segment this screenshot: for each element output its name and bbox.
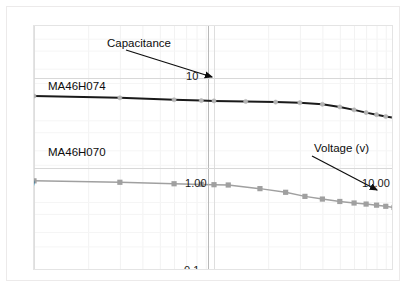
chart-figure: MA46H074 MA46H070 Capacitance Voltage (v… <box>0 0 408 289</box>
plot-area: MA46H074 MA46H070 Capacitance Voltage (v… <box>33 25 393 270</box>
annotation-voltage: Voltage (v) <box>314 142 369 154</box>
x-tick-10-00: 10.00 <box>362 177 390 189</box>
series-label-ma46h070: MA46H070 <box>48 146 106 158</box>
y-tick-0-1: 0.1 <box>184 264 200 270</box>
y-tick-10: 10 <box>186 70 198 82</box>
x-tick-1-00: 1.00 <box>185 177 207 189</box>
annotation-capacitance: Capacitance <box>107 37 171 49</box>
figure-frame: MA46H074 MA46H070 Capacitance Voltage (v… <box>6 6 400 281</box>
capacitance-arrow <box>126 50 212 77</box>
x-tick-0-10: 0.10 <box>33 177 35 189</box>
series-label-ma46h074: MA46H074 <box>48 80 106 92</box>
